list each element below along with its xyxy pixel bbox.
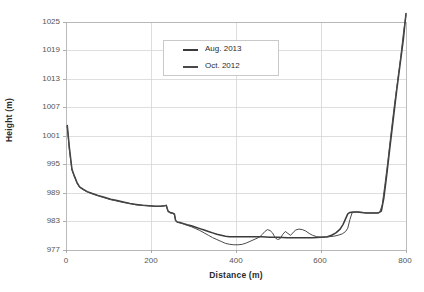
legend-label: Oct. 2012 <box>205 61 240 70</box>
legend-swatch-icon <box>183 49 198 51</box>
legend: Aug. 2013 Oct. 2012 <box>163 40 279 76</box>
legend-swatch-icon <box>183 66 198 68</box>
chart-figure: Height (m) Distance (m) 1025 1019 1013 1… <box>0 0 424 292</box>
legend-item-aug-2013: Aug. 2013 <box>164 41 280 59</box>
legend-item-oct-2012: Oct. 2012 <box>164 58 280 76</box>
legend-label: Aug. 2013 <box>205 44 241 53</box>
